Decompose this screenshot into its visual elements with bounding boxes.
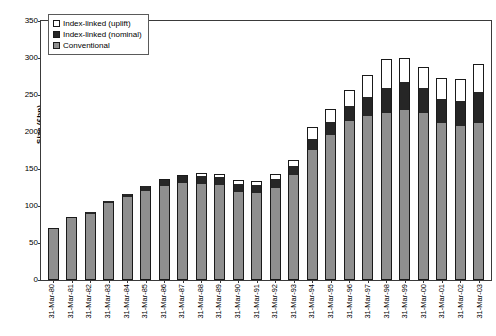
legend-item[interactable]: Index-linked (nominal): [53, 29, 142, 40]
bar-slot: [396, 21, 415, 280]
x-label-cell: 31-Mar-83: [99, 284, 118, 336]
stacked-bar[interactable]: [288, 160, 299, 280]
x-tick-mark: [183, 280, 184, 283]
y-tick-label: 300: [25, 54, 38, 62]
legend-label: Index-linked (nominal): [63, 31, 142, 39]
x-tick-label: 31-Mar-84: [123, 284, 131, 319]
bar-segment-nominal: [270, 179, 281, 187]
x-label-cell: 31-Mar-03: [470, 284, 489, 336]
stacked-bar[interactable]: [103, 201, 114, 280]
bar-segment-uplift: [436, 78, 447, 99]
stacked-bar[interactable]: [122, 194, 133, 280]
bar-segment-conventional: [344, 121, 355, 280]
stacked-bar[interactable]: [307, 127, 318, 280]
x-tick-label: 31-Mar-94: [308, 284, 316, 319]
x-label-cell: 31-Mar-87: [173, 284, 192, 336]
x-tick-mark: [146, 280, 147, 283]
x-tick-mark: [294, 280, 295, 283]
x-tick-label: 31-Mar-97: [364, 284, 372, 319]
bar-segment-nominal: [362, 97, 373, 116]
x-tick-mark: [53, 280, 54, 283]
legend-swatch-nominal: [53, 31, 60, 38]
x-tick-mark: [349, 280, 350, 283]
stacked-bar[interactable]: [399, 58, 410, 280]
bar-segment-nominal: [325, 122, 336, 135]
bar-segment-uplift: [381, 59, 392, 88]
stacked-bar[interactable]: [325, 109, 336, 280]
stacked-bar[interactable]: [362, 75, 373, 280]
stacked-bar[interactable]: [251, 181, 262, 280]
bar-segment-nominal: [233, 184, 244, 192]
x-tick-label: 31-Mar-95: [327, 284, 335, 319]
stacked-bar[interactable]: [473, 64, 484, 280]
bar-slot: [155, 21, 174, 280]
y-tick-label: 50: [29, 239, 38, 247]
stacked-bar[interactable]: [140, 186, 151, 280]
x-tick-label: 31-Mar-96: [346, 284, 354, 319]
stacked-bar[interactable]: [418, 67, 429, 280]
bar-slot: [451, 21, 470, 280]
stacked-bar[interactable]: [455, 79, 466, 280]
bar-slot: [229, 21, 248, 280]
bar-segment-nominal: [177, 176, 188, 183]
stacked-bar[interactable]: [270, 174, 281, 280]
bar-slot: [322, 21, 341, 280]
bar-segment-uplift: [307, 127, 318, 139]
bar-segment-uplift: [325, 109, 336, 122]
y-tick-label: 100: [25, 202, 38, 210]
x-tick-label: 31-Mar-86: [160, 284, 168, 319]
stacked-bar[interactable]: [85, 212, 96, 280]
stacked-bar[interactable]: [66, 217, 77, 280]
x-tick-mark: [201, 280, 202, 283]
stacked-bar[interactable]: [233, 180, 244, 280]
bar-segment-conventional: [196, 184, 207, 280]
x-label-cell: 31-Mar-81: [62, 284, 81, 336]
x-label-cell: 31-Mar-94: [303, 284, 322, 336]
bar-segment-nominal: [381, 88, 392, 113]
bar-segment-nominal: [418, 88, 429, 112]
bar-segment-conventional: [325, 135, 336, 280]
x-tick-label: 31-Mar-85: [141, 284, 149, 319]
bar-slot: [118, 21, 137, 280]
stacked-bar[interactable]: [196, 173, 207, 280]
bar-segment-uplift: [473, 64, 484, 92]
x-tick-mark: [460, 280, 461, 283]
stacked-bar[interactable]: [436, 78, 447, 280]
x-label-cell: 31-Mar-82: [80, 284, 99, 336]
bar-segment-conventional: [270, 188, 281, 280]
stacked-bar[interactable]: [48, 228, 59, 280]
bar-segment-uplift: [344, 90, 355, 106]
bar-segment-uplift: [362, 75, 373, 96]
x-label-cell: 31-Mar-02: [452, 284, 471, 336]
bar-segment-conventional: [233, 192, 244, 280]
x-tick-label: 31-Mar-93: [290, 284, 298, 319]
stacked-bar[interactable]: [214, 174, 225, 280]
bar-slot: [285, 21, 304, 280]
x-label-cell: 31-Mar-98: [377, 284, 396, 336]
x-label-cell: 31-Mar-92: [266, 284, 285, 336]
x-tick-label: 31-Mar-91: [253, 284, 261, 319]
stacked-bar[interactable]: [159, 179, 170, 280]
bar-segment-nominal: [436, 99, 447, 123]
bar-slot: [303, 21, 322, 280]
x-tick-label: 31-Mar-00: [420, 284, 428, 319]
x-tick-label: 31-Mar-03: [476, 284, 484, 319]
x-tick-mark: [386, 280, 387, 283]
legend-item[interactable]: Index-linked (uplift): [53, 18, 142, 29]
stacked-bar[interactable]: [381, 59, 392, 280]
x-label-cell: 31-Mar-00: [415, 284, 434, 336]
bar-slot: [211, 21, 230, 280]
legend-item[interactable]: Conventional: [53, 40, 142, 51]
stacked-bar[interactable]: [177, 175, 188, 280]
bar-segment-conventional: [85, 214, 96, 280]
bar-segment-nominal: [288, 166, 299, 175]
x-tick-mark: [238, 280, 239, 283]
bar-segment-conventional: [436, 123, 447, 280]
bar-segment-conventional: [66, 217, 77, 280]
x-tick-mark: [90, 280, 91, 283]
stacked-bar[interactable]: [344, 90, 355, 280]
bar-segment-conventional: [214, 185, 225, 280]
x-tick-label: 31-Mar-80: [48, 284, 56, 319]
bar-segment-nominal: [307, 139, 318, 150]
bar-slot: [359, 21, 378, 280]
